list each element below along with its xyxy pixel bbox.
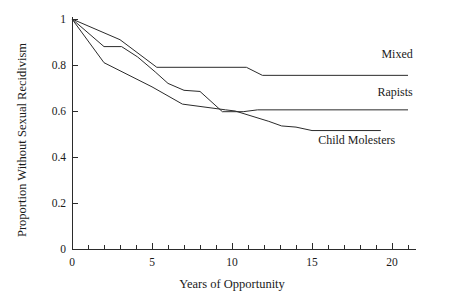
y-tick-label: 0.8 xyxy=(52,59,67,71)
y-tick-label: 0.6 xyxy=(52,105,67,117)
y-tick-label: 1 xyxy=(60,13,66,25)
series-label-rapists: Rapists xyxy=(377,85,413,99)
x-tick-label: 5 xyxy=(149,256,155,268)
y-tick-label: 0.4 xyxy=(52,151,67,163)
x-axis-tick-labels: 05101520 xyxy=(69,256,398,268)
series-line-rapists xyxy=(72,19,408,112)
x-tick-label: 0 xyxy=(69,256,75,268)
y-tick-label: 0.2 xyxy=(52,197,67,209)
recidivism-survival-chart: 05101520 00.20.40.60.81 MixedRapistsChil… xyxy=(0,0,459,303)
x-axis-title: Years of Opportunity xyxy=(179,277,285,291)
x-tick-label: 15 xyxy=(306,256,318,268)
x-tick-label: 20 xyxy=(386,256,398,268)
y-tick-label: 0 xyxy=(60,243,66,255)
x-tick-label: 10 xyxy=(226,256,238,268)
series-label-child-molesters: Child Molesters xyxy=(318,133,395,147)
series-label-mixed: Mixed xyxy=(381,47,412,61)
x-axis-ticks xyxy=(72,243,408,249)
series-labels: MixedRapistsChild Molesters xyxy=(318,47,413,147)
y-axis-tick-labels: 00.20.40.60.81 xyxy=(52,13,67,255)
series-line-child-molesters xyxy=(72,19,381,131)
chart-canvas: 05101520 00.20.40.60.81 MixedRapistsChil… xyxy=(0,0,459,303)
y-axis-ticks xyxy=(72,19,78,249)
y-axis-title: Proportion Without Sexual Recidivism xyxy=(15,43,29,237)
series-curves xyxy=(72,19,408,131)
